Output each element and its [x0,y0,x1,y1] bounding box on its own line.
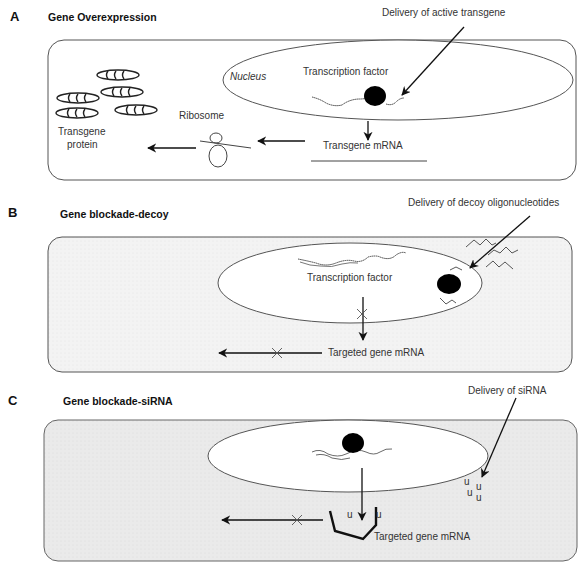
sirna-glyph: u [476,492,482,503]
panel-c [44,398,577,561]
nucleus-label: Nucleus [230,71,266,82]
targeted-gene-mrna-label-c: Targeted gene mRNA [374,531,470,542]
delivery-label-b: Delivery of decoy oligonucleotides [408,197,559,208]
transcription-factor-icon [437,274,461,294]
delivery-label-a: Delivery of active transgene [382,7,505,18]
transgene-protein-label-line1: Transgene [58,126,105,137]
delivery-label-c: Delivery of siRNA [468,385,546,396]
transgene-mrna-label: Transgene mRNA [323,140,403,151]
nucleus-c [208,420,488,492]
transcription-factor-icon [364,86,386,106]
transcription-factor-label-a: Transcription factor [303,66,388,77]
nucleus-a [223,40,573,120]
transgene-protein-label-line2: protein [67,139,98,150]
sirna-glyph: u [467,487,473,498]
panel-a-letter: A [10,9,19,24]
panel-b-letter: B [8,205,17,220]
sirna-glyph: u [476,481,482,492]
panel-a-title: Gene Overexpression [48,11,157,23]
sirna-bound-glyph: u [347,509,353,520]
targeted-gene-mrna-label-b: Targeted gene mRNA [328,347,424,358]
sirna-glyph: u [464,476,470,487]
panel-b [48,216,572,372]
panel-a [48,27,576,180]
diagram-canvas [0,0,584,568]
transcription-factor-label-b: Transcription factor [307,272,392,283]
panel-c-letter: C [8,393,17,408]
panel-b-title: Gene blockade-decoy [60,208,169,220]
transcription-factor-icon [342,433,364,453]
panel-c-title: Gene blockade-siRNA [63,395,173,407]
ribosome-label: Ribosome [179,110,224,121]
sirna-bound-glyph: u [376,509,382,520]
